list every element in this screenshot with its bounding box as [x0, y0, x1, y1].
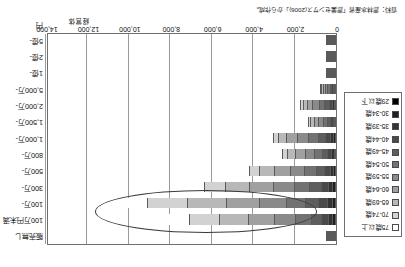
bar-segment: [305, 149, 314, 159]
bar-segment: [225, 182, 249, 192]
stacked-bar: [278, 149, 336, 159]
bar-segment: [259, 166, 274, 176]
bar-segment: [331, 84, 332, 94]
legend-item[interactable]: 40-44歳: [347, 133, 399, 146]
bar-segment: [335, 182, 336, 192]
bar-segment: [314, 117, 318, 127]
bar-segment: [332, 214, 334, 224]
stacked-bar: [326, 51, 336, 61]
x-axis-tick-label: 6,000: [204, 26, 222, 33]
bar-segment: [325, 84, 327, 94]
bar-segment: [334, 149, 335, 159]
bar-segment: [309, 182, 320, 192]
legend-item[interactable]: 55-59歳: [347, 171, 399, 184]
bar-segment: [312, 100, 318, 110]
bar-segment: [326, 35, 327, 45]
bar-segment: [328, 231, 329, 241]
chart-figure: 資料：農林水産省「農業センサス(2006)」から作成。 経営体 02,0004,…: [0, 0, 405, 267]
bar-row: [48, 84, 336, 94]
legend-item[interactable]: 35-39歳: [347, 121, 399, 134]
category-label: 500万-: [22, 165, 43, 178]
legend-item[interactable]: 30-34歳: [347, 108, 399, 121]
bar-segment: [330, 166, 333, 176]
bar-segment: [295, 214, 311, 224]
bar-segment: [334, 100, 335, 110]
bar-segment: [335, 198, 336, 208]
legend-label: 30-34歳: [365, 109, 389, 119]
bar-segment: [327, 231, 328, 241]
y-axis-unit-label: 円: [36, 19, 43, 32]
bar-segment: [332, 231, 333, 241]
bar-row: [48, 182, 336, 192]
bar-segment: [327, 117, 330, 127]
bar-segment: [299, 100, 300, 110]
bar-segment: [330, 68, 331, 78]
legend-label: 75歳以上: [361, 223, 389, 233]
bar-segment: [328, 68, 329, 78]
category-label: 販売無し: [15, 230, 43, 243]
bar-row: [48, 68, 336, 78]
bar-segment: [325, 133, 330, 143]
bar-segment: [335, 166, 336, 176]
bar-segment: [310, 117, 313, 127]
bar-segment: [334, 68, 335, 78]
bar-segment: [329, 35, 330, 45]
category-label: 1,500万-: [16, 116, 43, 129]
bar-row: [48, 149, 336, 159]
category-label: 800万-: [22, 149, 43, 162]
bar-segment: [307, 117, 308, 127]
bar-segment: [324, 100, 328, 110]
legend-label: 70-74歳: [365, 210, 389, 220]
bar-segment: [329, 231, 330, 241]
legend-swatch-icon: [392, 224, 399, 231]
bar-segment: [326, 231, 327, 241]
bar-segment: [278, 133, 287, 143]
legend-swatch-icon: [392, 111, 399, 118]
category-label: 2,000万-: [16, 100, 43, 113]
bar-segment: [335, 117, 336, 127]
bar-segment: [240, 166, 249, 176]
category-label: 2億-: [30, 51, 43, 64]
bar-segment: [278, 149, 282, 159]
source-note: 資料：農林水産省「農業センサス(2006)」から作成。: [253, 6, 397, 15]
bar-segment: [189, 214, 220, 224]
bar-segment: [329, 100, 332, 110]
x-axis-tick-label: 2,000: [287, 26, 305, 33]
bar-segment: [274, 214, 295, 224]
legend-item[interactable]: 65-69歳: [347, 196, 399, 209]
category-label: 1億-: [30, 67, 43, 80]
bar-segment: [330, 35, 331, 45]
bar-segment: [269, 133, 272, 143]
bar-segment: [287, 149, 295, 159]
bar-segment: [259, 198, 286, 208]
bar-segment: [286, 133, 297, 143]
bar-row: [48, 51, 336, 61]
bar-segment: [332, 198, 335, 208]
bar-segment: [274, 166, 290, 176]
bar-row: [48, 231, 336, 241]
category-label: 5,000万-: [16, 84, 43, 97]
bar-segment: [187, 198, 226, 208]
legend-item[interactable]: 45-49歳: [347, 146, 399, 159]
bar-segment: [327, 149, 331, 159]
bar-segment: [323, 117, 327, 127]
bar-segment: [330, 231, 331, 241]
x-axis-tick-label: 4,000: [245, 26, 263, 33]
bar-segment: [314, 149, 322, 159]
plot-area: [47, 33, 337, 245]
bar-segment: [328, 182, 332, 192]
legend-item[interactable]: 60-64歳: [347, 184, 399, 197]
legend-item[interactable]: 50-54歳: [347, 158, 399, 171]
bar-row: [48, 117, 336, 127]
bar-segment: [333, 133, 335, 143]
legend-item[interactable]: 29歳以下: [347, 95, 399, 108]
category-label: 100万円未満: [3, 214, 43, 227]
legend-label: 40-44歳: [365, 135, 389, 145]
bar-segment: [327, 51, 328, 61]
legend-item[interactable]: 70-74歳: [347, 209, 399, 222]
bar-segment: [332, 182, 334, 192]
legend-item[interactable]: 75歳以上: [347, 221, 399, 234]
bar-segment: [334, 117, 335, 127]
bar-segment: [249, 182, 273, 192]
bar-segment: [335, 133, 336, 143]
